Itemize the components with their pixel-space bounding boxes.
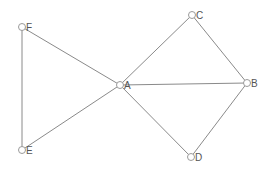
node-f[interactable]: F — [19, 22, 33, 33]
node-c[interactable]: C — [189, 10, 204, 21]
edge-e-a — [22, 85, 120, 150]
edge-d-b — [191, 83, 247, 157]
node-e[interactable]: E — [19, 145, 34, 156]
node-b[interactable]: B — [244, 78, 259, 89]
edges-layer — [22, 15, 247, 157]
graph-diagram: ABCDEF — [0, 0, 273, 171]
node-label: A — [124, 80, 131, 91]
node-label: C — [196, 10, 203, 21]
edge-a-b — [120, 83, 247, 85]
node-label: E — [26, 145, 33, 156]
node-circle-icon[interactable] — [188, 154, 195, 161]
nodes-layer: ABCDEF — [19, 10, 259, 163]
edge-c-b — [192, 15, 247, 83]
node-label: B — [251, 78, 258, 89]
node-circle-icon[interactable] — [19, 24, 26, 31]
node-circle-icon[interactable] — [189, 12, 196, 19]
node-circle-icon[interactable] — [117, 82, 124, 89]
node-label: F — [26, 22, 32, 33]
node-a[interactable]: A — [117, 80, 132, 91]
node-circle-icon[interactable] — [244, 80, 251, 87]
node-d[interactable]: D — [188, 152, 203, 163]
edge-a-c — [120, 15, 192, 85]
edge-f-a — [22, 27, 120, 85]
edge-a-d — [120, 85, 191, 157]
node-label: D — [195, 152, 202, 163]
node-circle-icon[interactable] — [19, 147, 26, 154]
